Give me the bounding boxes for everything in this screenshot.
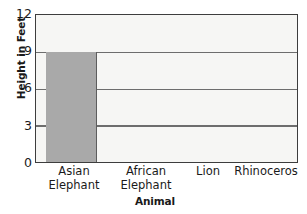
y-tick-label-6: 6 <box>4 82 32 95</box>
x-tick-label-rhinoceros: Rhinoceros <box>229 165 303 179</box>
bar-chart: Height in Feet 12 9 6 3 0 Asian Elephant… <box>0 0 307 214</box>
bar-asian-elephant[interactable] <box>46 52 97 162</box>
bars-layer <box>36 15 297 162</box>
y-tick-label-12: 12 <box>4 8 32 21</box>
y-tick-label-3: 3 <box>4 120 32 133</box>
x-axis-title: Animal <box>35 195 275 207</box>
x-axis-tick-labels: Asian Elephant African Elephant Lion Rhi… <box>35 165 298 197</box>
y-tick-label-0: 0 <box>4 157 32 170</box>
plot-area <box>35 14 298 163</box>
y-axis-tick-labels: 12 9 6 3 0 <box>0 0 32 214</box>
x-tick-label-african-elephant: African Elephant <box>107 165 185 192</box>
y-tick-label-9: 9 <box>4 45 32 58</box>
x-tick-label-lion: Lion <box>180 165 236 179</box>
x-tick-label-asian-elephant: Asian Elephant <box>35 165 113 192</box>
